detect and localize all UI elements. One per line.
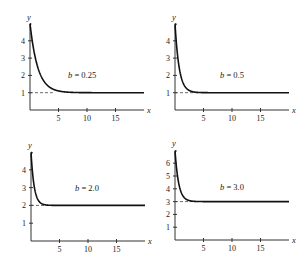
x-tick-label: 15 (257, 244, 265, 253)
y-tick-label: 3 (166, 198, 170, 207)
y-tick-label: 2 (22, 201, 26, 210)
y-tick-label: 4 (22, 166, 26, 175)
data-curve (175, 150, 289, 201)
x-tick-label: 15 (112, 114, 120, 123)
x-tick-label: 15 (113, 245, 121, 254)
x-tick-label: 10 (228, 114, 236, 123)
y-tick-label: 4 (21, 37, 25, 46)
y-axis-label: y (171, 12, 176, 22)
x-tick-label: 5 (202, 114, 206, 123)
data-curve (30, 24, 144, 93)
y-tick-label: 3 (166, 54, 170, 63)
y-axis-label: y (27, 140, 32, 150)
data-curve (175, 24, 289, 93)
data-curve (31, 152, 145, 205)
parameter-annotation: b = 3.0 (220, 182, 244, 192)
y-tick-label: 4 (166, 37, 170, 46)
x-tick-label: 15 (257, 114, 265, 123)
y-axis-label: y (26, 12, 31, 22)
y-tick-label: 1 (166, 89, 170, 98)
y-tick-label: 3 (21, 54, 25, 63)
x-tick-label: 10 (228, 244, 236, 253)
x-axis-label: x (291, 105, 296, 115)
parameter-annotation: b = 0.5 (220, 70, 244, 80)
x-axis-label: x (146, 105, 151, 115)
chart-panel-3: xy510151234b = 2.0 (22, 140, 152, 254)
y-tick-label: 3 (22, 184, 26, 193)
figure-canvas: xy510151234b = 0.25xy510151234b = 0.5xy5… (0, 0, 307, 270)
chart-panel-2: xy510151234b = 0.5 (166, 12, 296, 124)
y-tick-label: 1 (22, 219, 26, 228)
y-axis-label: y (171, 138, 176, 148)
y-tick-label: 4 (166, 185, 170, 194)
y-tick-label: 1 (166, 223, 170, 232)
x-tick-label: 10 (84, 245, 92, 254)
y-tick-label: 1 (21, 89, 25, 98)
y-tick-label: 2 (21, 71, 25, 80)
x-tick-label: 5 (202, 244, 206, 253)
x-axis-label: x (147, 236, 152, 246)
y-tick-label: 2 (166, 210, 170, 219)
x-tick-label: 5 (57, 114, 61, 123)
chart-panel-1: xy510151234b = 0.25 (21, 12, 151, 124)
parameter-annotation: b = 2.0 (75, 183, 99, 193)
y-tick-label: 6 (166, 159, 170, 168)
chart-panel-4: xy51015123456b = 3.0 (166, 138, 296, 253)
y-tick-label: 2 (166, 71, 170, 80)
y-tick-label: 5 (166, 172, 170, 181)
x-tick-label: 10 (83, 114, 91, 123)
x-tick-label: 5 (58, 245, 62, 254)
x-axis-label: x (291, 235, 296, 245)
parameter-annotation: b = 0.25 (68, 70, 96, 80)
